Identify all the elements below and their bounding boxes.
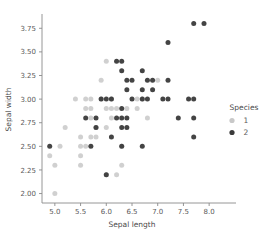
data-point xyxy=(119,68,124,73)
data-point xyxy=(52,163,57,168)
data-point xyxy=(166,40,171,45)
data-point xyxy=(52,191,57,196)
data-point xyxy=(94,125,99,130)
data-point xyxy=(145,97,150,102)
data-point xyxy=(94,116,99,121)
data-point xyxy=(124,106,129,111)
data-point xyxy=(145,116,150,121)
data-point xyxy=(104,125,109,130)
data-point xyxy=(135,97,140,102)
data-point xyxy=(191,21,196,26)
x-tick-label: 6.0 xyxy=(101,208,112,216)
data-point xyxy=(119,125,124,130)
data-point xyxy=(83,116,88,121)
data-point xyxy=(94,134,99,139)
data-point xyxy=(104,97,109,102)
legend-marker-1 xyxy=(229,118,234,123)
legend-label-2: 2 xyxy=(244,128,249,137)
data-point xyxy=(78,153,83,158)
y-axis-title: Sepal width xyxy=(4,87,13,131)
legend-label-1: 1 xyxy=(244,116,249,125)
data-point xyxy=(88,144,93,149)
data-point xyxy=(88,116,93,121)
data-point xyxy=(119,163,124,168)
data-point xyxy=(176,116,181,121)
data-point xyxy=(78,134,83,139)
data-point xyxy=(155,78,160,83)
data-point xyxy=(140,97,145,102)
x-axis-title: Sepal length xyxy=(108,220,155,229)
x-tick-label: 5.5 xyxy=(75,208,86,216)
data-point xyxy=(47,144,52,149)
plot-canvas: 5.05.56.06.57.07.58.02.002.252.502.753.0… xyxy=(0,0,273,239)
data-point xyxy=(104,106,109,111)
data-point xyxy=(109,134,114,139)
data-point xyxy=(119,116,124,121)
y-tick-label: 2.75 xyxy=(20,119,36,127)
x-tick-label: 8.0 xyxy=(204,208,215,216)
data-point xyxy=(140,87,145,92)
data-point xyxy=(83,106,88,111)
data-point xyxy=(130,97,135,102)
data-point xyxy=(83,97,88,102)
data-point xyxy=(202,21,207,26)
data-point xyxy=(140,144,145,149)
data-point xyxy=(73,97,78,102)
x-tick-label: 7.0 xyxy=(152,208,163,216)
data-point xyxy=(109,97,114,102)
data-point xyxy=(191,134,196,139)
data-point xyxy=(104,172,109,177)
data-point xyxy=(78,144,83,149)
scatter-plot-figure: 5.05.56.06.57.07.58.02.002.252.502.753.0… xyxy=(0,0,273,239)
data-point xyxy=(119,106,124,111)
data-point xyxy=(124,78,129,83)
data-point xyxy=(140,68,145,73)
data-point xyxy=(109,106,114,111)
data-point xyxy=(114,116,119,121)
data-point xyxy=(47,153,52,158)
data-point xyxy=(114,59,119,64)
x-tick-label: 7.5 xyxy=(178,208,189,216)
data-point xyxy=(150,78,155,83)
data-point xyxy=(166,78,171,83)
data-point xyxy=(191,97,196,102)
data-point xyxy=(99,97,104,102)
data-point xyxy=(99,78,104,83)
y-tick-label: 3.50 xyxy=(20,48,36,56)
data-point xyxy=(186,97,191,102)
series-group-1 xyxy=(47,59,160,196)
x-tick-label: 6.5 xyxy=(126,208,137,216)
data-point xyxy=(88,134,93,139)
data-point xyxy=(160,97,165,102)
data-point xyxy=(135,106,140,111)
data-point xyxy=(114,172,119,177)
data-point xyxy=(119,144,124,149)
data-point xyxy=(145,78,150,83)
data-point xyxy=(88,97,93,102)
data-point xyxy=(109,116,114,121)
data-point xyxy=(124,125,129,130)
legend-title: Species xyxy=(230,103,259,112)
data-point xyxy=(58,144,63,149)
data-point xyxy=(150,87,155,92)
data-point xyxy=(104,59,109,64)
y-tick-label: 2.25 xyxy=(20,167,36,175)
y-tick-label: 3.75 xyxy=(20,25,36,33)
data-point xyxy=(166,97,171,102)
data-point xyxy=(119,59,124,64)
data-point xyxy=(130,78,135,83)
data-point xyxy=(191,116,196,121)
data-point xyxy=(124,87,129,92)
x-tick-label: 5.0 xyxy=(49,208,60,216)
y-tick-label: 3.25 xyxy=(20,72,36,80)
data-point xyxy=(114,106,119,111)
y-tick-label: 2.00 xyxy=(20,190,36,198)
y-tick-label: 3.00 xyxy=(20,96,36,104)
y-tick-label: 2.50 xyxy=(20,143,36,151)
data-point xyxy=(78,163,83,168)
legend-marker-2 xyxy=(229,130,234,135)
data-point xyxy=(88,106,93,111)
data-point xyxy=(83,144,88,149)
data-point xyxy=(124,116,129,121)
data-point xyxy=(63,125,68,130)
